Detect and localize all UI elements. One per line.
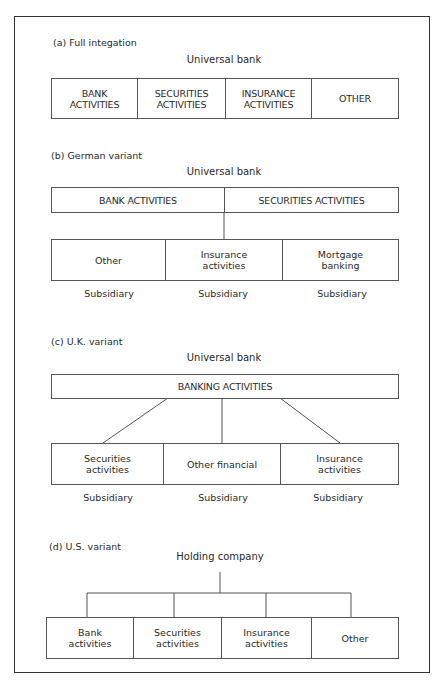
- subsidiary-label: Subsidiary: [69, 288, 149, 299]
- subsidiary-label: Subsidiary: [183, 288, 263, 299]
- section-d-title: Holding company: [165, 551, 275, 562]
- box-other: OTHER: [312, 79, 398, 118]
- section-a-label: (a) Full integation: [53, 37, 137, 48]
- section-b-label: (b) German variant: [51, 150, 142, 161]
- box-bank-activities: BANK ACTIVITIES: [52, 188, 225, 212]
- box-insurance-activities: INSURANCEACTIVITIES: [226, 79, 312, 118]
- box-securities-activities: SECURITIES ACTIVITIES: [225, 188, 398, 212]
- box-other: Other: [52, 240, 166, 280]
- box-mortgage-banking: Mortgagebanking: [283, 240, 398, 280]
- box-insurance-activities: Insuranceactivities: [281, 444, 398, 484]
- subsidiary-label: Subsidiary: [183, 492, 263, 503]
- section-b-title: Universal bank: [174, 166, 274, 177]
- box-other: Other: [312, 618, 398, 658]
- section-a-box-row: BANKACTIVITIES SECURITIESACTIVITIES INSU…: [51, 78, 399, 119]
- section-b-top-row: BANK ACTIVITIES SECURITIES ACTIVITIES: [51, 187, 399, 213]
- box-securities-activities: Securitiesactivities: [52, 444, 164, 484]
- section-c-sub-row: Securitiesactivities Other financial Ins…: [51, 443, 399, 485]
- section-d-box-row: Bankactivities Securitiesactivities Insu…: [46, 617, 399, 659]
- box-other-financial: Other financial: [164, 444, 281, 484]
- box-securities-activities: SECURITIESACTIVITIES: [138, 79, 226, 118]
- section-c-label: (c) U.K. variant: [51, 336, 122, 347]
- section-b-sub-row: Other Insuranceactivities Mortgagebankin…: [51, 239, 399, 281]
- subsidiary-label: Subsidiary: [298, 492, 378, 503]
- box-bank-activities: Bankactivities: [47, 618, 134, 658]
- box-insurance-activities: Insuranceactivities: [166, 240, 283, 280]
- section-a-title: Universal bank: [174, 54, 274, 65]
- box-banking-activities: BANKING ACTIVITIES: [52, 375, 398, 398]
- box-insurance-activities: Insuranceactivities: [222, 618, 312, 658]
- box-securities-activities: Securitiesactivities: [134, 618, 222, 658]
- subsidiary-label: Subsidiary: [302, 288, 382, 299]
- section-c-top-row: BANKING ACTIVITIES: [51, 374, 399, 399]
- box-bank-activities: BANKACTIVITIES: [52, 79, 138, 118]
- section-d-label: (d) U.S. variant: [49, 541, 121, 552]
- section-c-title: Universal bank: [174, 352, 274, 363]
- subsidiary-label: Subsidiary: [68, 492, 148, 503]
